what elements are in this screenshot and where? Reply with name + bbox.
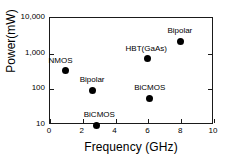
y-tick-label: 100 (3, 83, 45, 92)
data-point (177, 38, 184, 45)
x-tick-mark (148, 119, 149, 123)
x-tick-mark (181, 119, 182, 123)
y-tick-mark (208, 89, 212, 90)
data-point (62, 67, 69, 74)
data-point-label: HBT(GaAs) (126, 44, 167, 53)
x-axis-title: Frequency (GHz) (49, 140, 213, 154)
y-tick-mark (50, 89, 54, 90)
x-tick-label: 6 (135, 126, 159, 135)
data-point-label: BiCMOS (134, 83, 165, 92)
data-point-label: BiCMOS (84, 110, 115, 119)
y-tick-label: 10 (3, 119, 45, 128)
data-point (146, 95, 153, 102)
y-tick-mark (50, 54, 54, 55)
x-tick-label: 2 (70, 126, 94, 135)
x-tick-mark (116, 119, 117, 123)
data-point-label: NMOS (49, 56, 73, 65)
x-tick-label: 4 (103, 126, 127, 135)
data-point-label: Bipolar (80, 75, 105, 84)
x-tick-mark (214, 119, 215, 123)
scatter-chart: 0246810 10,0001,00010010 NMOSBipolarBiCM… (0, 0, 230, 163)
data-point (93, 122, 100, 129)
data-point (144, 55, 151, 62)
x-tick-label: 10 (201, 126, 225, 135)
y-axis-title: Power(mW) (4, 4, 18, 78)
data-point-label: Bipolar (167, 26, 192, 35)
x-tick-mark (50, 119, 51, 123)
x-tick-mark (83, 119, 84, 123)
data-point (89, 87, 96, 94)
x-tick-label: 8 (168, 126, 192, 135)
y-tick-mark (208, 54, 212, 55)
